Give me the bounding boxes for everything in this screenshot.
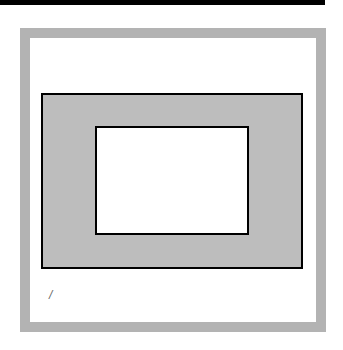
slash-mark: / xyxy=(49,288,52,302)
top-bar xyxy=(0,0,325,5)
white-inner-rectangle xyxy=(95,126,249,235)
